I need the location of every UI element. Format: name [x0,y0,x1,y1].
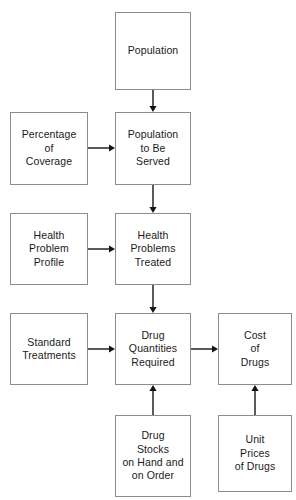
connector-quantities-to-cost [191,345,218,352]
connector-treated-to-quantities [149,285,156,313]
node-standard-treatments[interactable]: Standard Treatments [10,313,88,385]
node-drug-stocks-on-hand-and-on-order[interactable]: Drug Stocks on Hand and on Order [115,415,191,497]
node-population-to-be-served[interactable]: Population to Be Served [115,112,191,185]
connector-profile-to-treated [88,245,115,252]
node-health-problem-profile-label: Health Problem Profile [29,229,69,269]
node-percentage-of-coverage-label: Percentage of Coverage [22,128,77,168]
node-cost-of-drugs-label: Cost of Drugs [241,329,270,369]
drug-quantification-flowchart: Population Percentage of Coverage Popula… [0,0,296,500]
connector-prices-to-cost [251,385,258,415]
node-drug-quantities-required[interactable]: Drug Quantities Required [115,313,191,385]
connector-served-to-treated [149,185,156,213]
figure-caption [0,0,296,7]
node-drug-quantities-required-label: Drug Quantities Required [129,329,177,369]
node-population-label: Population [128,44,179,57]
connector-stocks-to-quantities [149,385,156,415]
node-health-problems-treated-label: Health Problems Treated [130,229,175,269]
connector-population-to-served [149,90,156,112]
node-standard-treatments-label: Standard Treatments [22,336,76,363]
node-unit-prices-of-drugs[interactable]: Unit Prices of Drugs [218,415,292,492]
node-unit-prices-of-drugs-label: Unit Prices of Drugs [235,433,275,473]
node-population-to-be-served-label: Population to Be Served [128,128,179,168]
node-health-problem-profile[interactable]: Health Problem Profile [10,213,88,285]
node-percentage-of-coverage[interactable]: Percentage of Coverage [10,112,88,185]
connector-standard-to-quantities [88,345,115,352]
node-cost-of-drugs[interactable]: Cost of Drugs [218,313,292,385]
connector-percentage-to-served [88,144,115,151]
node-health-problems-treated[interactable]: Health Problems Treated [115,213,191,285]
node-population[interactable]: Population [115,12,191,90]
node-drug-stocks-on-hand-and-on-order-label: Drug Stocks on Hand and on Order [122,429,183,483]
